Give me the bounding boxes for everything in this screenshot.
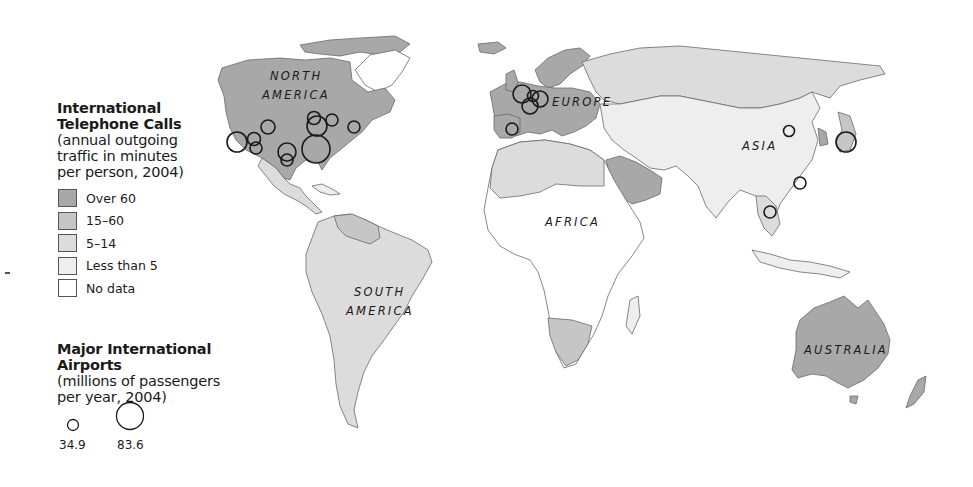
legend-title-line-1: International (57, 100, 237, 116)
bubble-small-icon (68, 420, 79, 431)
bubble-circles (57, 400, 177, 436)
iceland-shape (478, 42, 506, 54)
bubble-large-icon (117, 403, 144, 430)
swatch-label: Over 60 (86, 191, 136, 206)
korea-shape (818, 128, 828, 146)
swatch-5-14 (58, 234, 77, 252)
southern-africa-shape (548, 318, 592, 366)
stray-mark (5, 272, 10, 274)
caribbean-islands (312, 184, 340, 195)
airport-legend-title: Major International Airports (57, 341, 257, 373)
legend-subtitle-line-1: (annual outgoing (57, 132, 237, 148)
swatch-label: 15–60 (86, 213, 124, 228)
legend-telephone: International Telephone Calls (annual ou… (57, 100, 237, 300)
bubble-small-label: 34.9 (59, 438, 86, 452)
legend-airports: Major International Airports (millions o… (57, 341, 257, 405)
label-australia: AUSTRALIA (803, 343, 888, 357)
swatch-label: Less than 5 (86, 258, 158, 273)
legend-item-less-than-5: Less than 5 (58, 255, 237, 278)
swatch-15-60 (58, 212, 77, 230)
legend-subtitle-line-3: per person, 2004) (57, 164, 237, 180)
label-south-america-2: AMERICA (345, 304, 414, 318)
tasmania-shape (850, 396, 858, 404)
australia-shape (792, 296, 890, 388)
legend-subtitle-line-2: traffic in minutes (57, 148, 237, 164)
label-asia: ASIA (741, 139, 777, 153)
label-europe: EUROPE (552, 95, 612, 109)
legend-item-no-data: No data (58, 277, 237, 300)
greenland (355, 50, 410, 92)
legend-item-15-60: 15–60 (58, 210, 237, 233)
swatch-label: 5–14 (86, 236, 116, 251)
airport-legend-subtitle-1: (millions of passengers (57, 373, 257, 389)
swatch-label: No data (86, 281, 135, 296)
russia-shape (582, 46, 885, 108)
bubble-large-label: 83.6 (117, 438, 144, 452)
legend-swatches: Over 60 15–60 5–14 Less than 5 No data (57, 187, 237, 300)
label-africa: AFRICA (544, 215, 600, 229)
label-north-america: NORTH (270, 69, 322, 83)
bubble-size-key: 34.9 83.6 (57, 400, 177, 450)
legend-item-5-14: 5–14 (58, 232, 237, 255)
south-america-shape (306, 214, 432, 428)
airport-circle (794, 177, 806, 189)
label-south-america: SOUTH (354, 285, 405, 299)
new-zealand-shape (906, 376, 926, 408)
label-north-america-2: AMERICA (261, 88, 330, 102)
swatch-over-60 (58, 189, 77, 207)
scandinavia-shape (535, 48, 590, 88)
indonesia-shape (752, 250, 850, 278)
legend-item-over-60: Over 60 (58, 187, 237, 210)
swatch-no-data (58, 279, 77, 297)
madagascar-shape (626, 296, 640, 334)
legend-title-line-2: Telephone Calls (57, 116, 237, 132)
swatch-less-than-5 (58, 257, 77, 275)
